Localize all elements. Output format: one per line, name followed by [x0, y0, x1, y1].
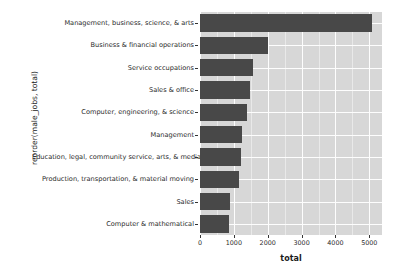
y-axis-tick-mark [195, 224, 198, 225]
y-axis-tick-mark [195, 112, 198, 113]
y-axis-tick-mark [195, 135, 198, 136]
plot-panel [200, 12, 382, 235]
bar [200, 81, 250, 98]
y-axis-tick-label: Sales [32, 198, 194, 206]
y-axis-tick-mark [195, 179, 198, 180]
bar [200, 14, 372, 31]
y-axis-tick-label: Management [32, 131, 194, 139]
y-axis-tick-label: Computer & mathematical [32, 220, 194, 228]
x-axis-tick-label: 3000 [293, 239, 309, 247]
y-axis-tick-label: Sales & office [32, 86, 194, 94]
bar [200, 104, 247, 121]
x-axis-tick-labels: 010002000300040005000 [200, 235, 382, 255]
y-axis-tick-label: Production, transportation, & material m… [32, 175, 194, 183]
x-axis-tick-label: 2000 [260, 239, 276, 247]
bar [200, 171, 239, 188]
bar [200, 59, 253, 76]
x-axis-tick-label: 4000 [327, 239, 343, 247]
bar [200, 148, 241, 165]
y-axis-tick-mark [195, 202, 198, 203]
y-axis-tick-mark [195, 68, 198, 69]
bar [200, 215, 229, 232]
y-axis-tick-label: Management, business, science, & arts [32, 19, 194, 27]
y-axis-tick-labels: Management, business, science, & artsBus… [32, 12, 194, 235]
x-axis-tick-label: 5000 [361, 239, 377, 247]
bar [200, 37, 268, 54]
bar-chart: reorder(male_jobs, total) Management, bu… [0, 0, 397, 276]
y-axis-tick-label: Service occupations [32, 64, 194, 72]
bar [200, 126, 242, 143]
y-axis-tick-mark [195, 23, 198, 24]
y-axis-tick-label: Education, legal, community service, art… [32, 153, 194, 161]
y-axis-tick-mark [195, 157, 198, 158]
x-axis-tick-mark [200, 235, 201, 238]
x-axis-tick-label: 1000 [226, 239, 242, 247]
x-axis-tick-label: 0 [198, 239, 202, 247]
y-axis-tick-label: Computer, engineering, & science [32, 108, 194, 116]
x-axis-title: total [200, 254, 382, 263]
x-axis-tick-mark [268, 235, 269, 238]
y-axis-tick-label: Business & financial operations [32, 41, 194, 49]
y-axis-tick-mark [195, 45, 198, 46]
x-axis-tick-mark [302, 235, 303, 238]
bar [200, 193, 230, 210]
x-axis-tick-mark [234, 235, 235, 238]
x-axis-tick-mark [369, 235, 370, 238]
x-axis-tick-mark [335, 235, 336, 238]
y-axis-tick-mark [195, 90, 198, 91]
